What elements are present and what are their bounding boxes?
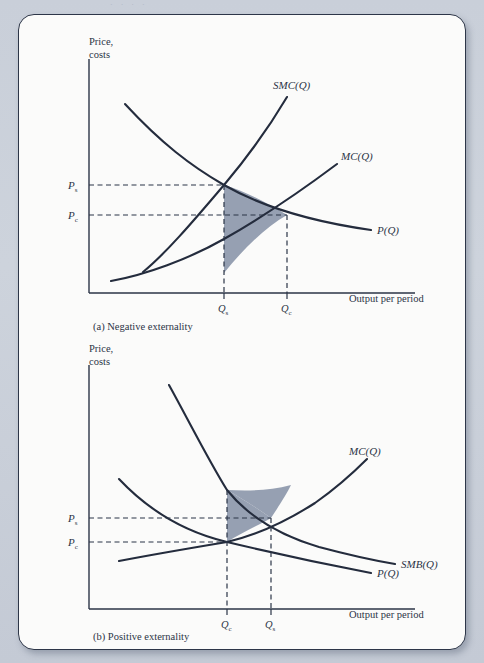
curve-smc-a [143,97,287,272]
curve-label-smb-b: SMB(Q) [401,558,438,571]
panel-positive-externality: Price, costs Output per period Ps Pc Qc … [19,333,466,647]
curve-label-mc-b: MC(Q) [348,445,381,458]
curve-label-pq-a: P(Q) [376,224,399,237]
quantity-label-qc-b: Qc [221,619,232,633]
caption-a: (a) Negative externality [93,321,193,333]
caption-b: (b) Positive externality [93,631,190,643]
price-label-ps-b: Ps [67,512,78,527]
x-axis-title-b: Output per period [349,609,424,620]
deadweight-loss-region-a [224,185,287,273]
quantity-label-qs-a: Qs [218,303,229,317]
chart-b: Price, costs Output per period Ps Pc Qc … [19,333,466,647]
scan-edge-artifact: · · · · [0,0,484,14]
price-label-pc-a: Pc [67,209,78,224]
y-axis-title-line1-b: Price, [89,343,113,354]
price-label-pc-b: Pc [67,536,78,551]
y-axis-title-line1-a: Price, [89,36,113,47]
price-label-ps-a: Ps [67,179,78,194]
figure-page: · · · · [0,0,484,663]
y-axis-title-line2-b: costs [89,356,110,367]
panel-negative-externality: Price, costs Output per period Ps Pc Qs … [19,19,466,337]
chart-a: Price, costs Output per period Ps Pc Qs … [19,19,466,337]
figure-card: Price, costs Output per period Ps Pc Qs … [18,14,466,650]
curve-label-smc-a: SMC(Q) [273,79,311,92]
curve-label-pq-b: P(Q) [376,567,399,580]
quantity-label-qc-a: Qc [281,303,292,317]
curve-smb-b [169,385,395,564]
y-axis-title-line2-a: costs [89,49,110,60]
curve-label-mc-a: MC(Q) [340,150,373,163]
quantity-label-qs-b: Qs [265,619,276,633]
x-axis-title-a: Output per period [349,293,424,304]
